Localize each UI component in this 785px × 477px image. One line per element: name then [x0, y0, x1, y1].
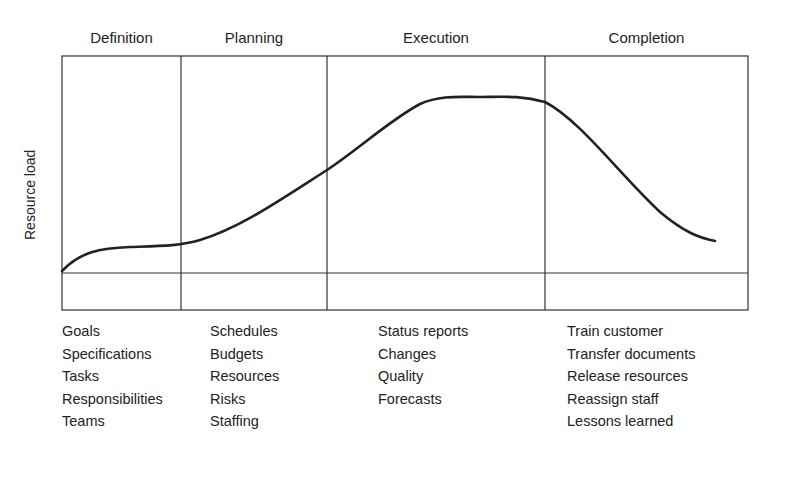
activity-item: Staffing: [210, 410, 279, 433]
activity-item: Quality: [378, 365, 468, 388]
activity-item: Tasks: [62, 365, 163, 388]
activities-planning: Schedules Budgets Resources Risks Staffi…: [210, 320, 279, 433]
activity-item: Forecasts: [378, 388, 468, 411]
activity-item: Specifications: [62, 343, 163, 366]
activity-item: Status reports: [378, 320, 468, 343]
activity-item: Train customer: [567, 320, 695, 343]
activity-item: Budgets: [210, 343, 279, 366]
activities-completion: Train customer Transfer documents Releas…: [567, 320, 695, 433]
activity-item: Risks: [210, 388, 279, 411]
resource-load-curve: [62, 97, 715, 271]
activities-execution: Status reports Changes Quality Forecasts: [378, 320, 468, 410]
activity-item: Changes: [378, 343, 468, 366]
activity-item: Reassign staff: [567, 388, 695, 411]
activity-item: Responsibilities: [62, 388, 163, 411]
activities-definition: Goals Specifications Tasks Responsibilit…: [62, 320, 163, 433]
activity-item: Release resources: [567, 365, 695, 388]
activity-item: Resources: [210, 365, 279, 388]
activity-item: Lessons learned: [567, 410, 695, 433]
activity-item: Goals: [62, 320, 163, 343]
chart-frame: [62, 56, 748, 310]
activity-item: Transfer documents: [567, 343, 695, 366]
activity-item: Teams: [62, 410, 163, 433]
activity-item: Schedules: [210, 320, 279, 343]
